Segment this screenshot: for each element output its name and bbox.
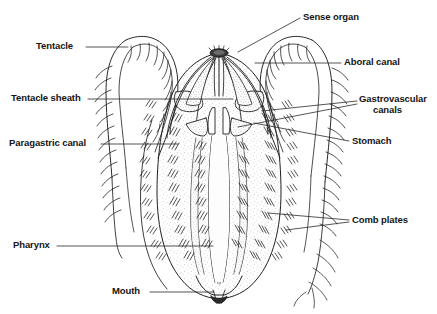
ctenophore-anatomy-figure: Tentacle Tentacle sheath Paragastric can… (0, 0, 437, 314)
label-paragastric-canal: Paragastric canal (9, 137, 86, 148)
label-gastrovascular-canals-line2: canals (373, 105, 402, 116)
leader-sense-organ (238, 18, 300, 52)
label-aboral-canal: Aboral canal (344, 56, 400, 67)
label-pharynx: Pharynx (13, 239, 50, 250)
pharynx (209, 136, 230, 284)
label-gastrovascular-canals: Gastrovascular canals (359, 94, 435, 115)
sense-organ (209, 46, 229, 58)
label-sense-organ: Sense organ (303, 11, 359, 22)
leader-comb-plates-2 (286, 222, 349, 230)
label-comb-plates: Comb plates (352, 214, 408, 225)
label-tentacle: Tentacle (36, 40, 73, 51)
label-tentacle-sheath: Tentacle sheath (11, 92, 81, 103)
label-gastrovascular-canals-line1: Gastrovascular (359, 93, 427, 104)
label-stomach: Stomach (352, 135, 391, 146)
label-mouth: Mouth (112, 285, 140, 296)
leader-gastrovascular-1 (262, 101, 357, 111)
figure-ink-group (57, 18, 357, 308)
